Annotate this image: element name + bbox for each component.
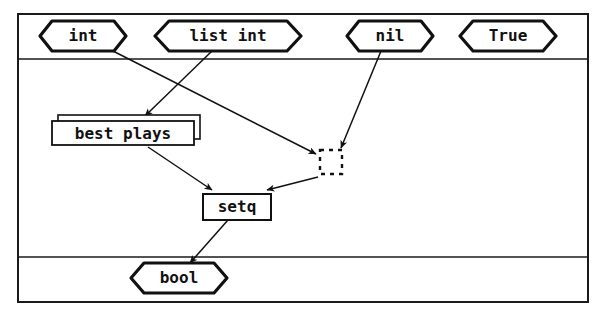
diagram-canvas: int list int nil True best plays setq bo… (0, 0, 603, 319)
node-setq[interactable] (203, 194, 271, 220)
node-best-plays[interactable] (52, 121, 194, 145)
node-bool[interactable] (131, 263, 227, 293)
node-nil[interactable] (347, 21, 433, 51)
diagram-frame (18, 14, 588, 302)
node-true[interactable] (460, 21, 556, 51)
diagram-svg (0, 0, 603, 319)
node-list-int[interactable] (155, 21, 301, 51)
node-cons-cell[interactable] (320, 150, 342, 174)
node-int[interactable] (40, 21, 126, 51)
